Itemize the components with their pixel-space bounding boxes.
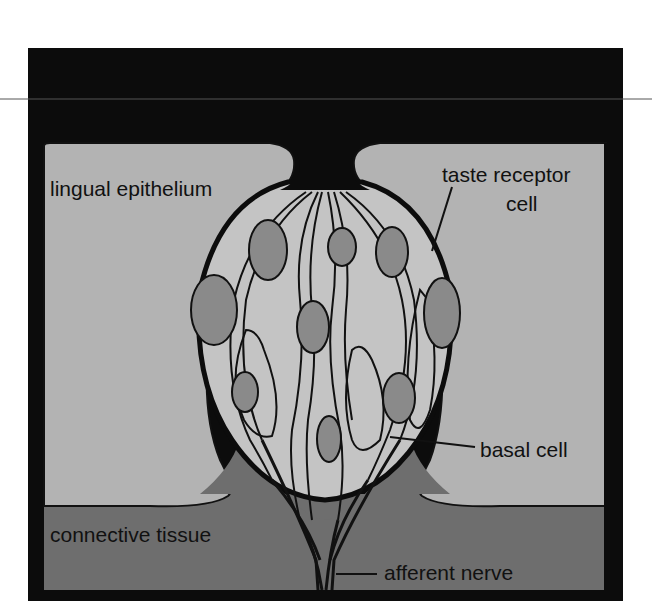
label-basal-cell: basal cell (480, 438, 568, 461)
epithelium-edge-right (604, 143, 610, 593)
nucleus (249, 220, 287, 280)
label-afferent-nerve: afferent nerve (384, 561, 513, 584)
label-cell: cell (506, 192, 538, 215)
nucleus (376, 227, 408, 277)
nucleus (328, 228, 356, 266)
taste-bud-diagram: lingual epithelium taste receptor cell b… (0, 0, 652, 609)
nucleus (232, 372, 258, 412)
nucleus (383, 373, 415, 423)
label-lingual-epithelium: lingual epithelium (50, 177, 212, 200)
label-taste-receptor: taste receptor (442, 163, 570, 186)
label-connective-tissue: connective tissue (50, 523, 211, 546)
nucleus (297, 301, 329, 353)
nucleus (317, 416, 341, 462)
nucleus (424, 278, 460, 348)
nucleus (191, 275, 237, 345)
